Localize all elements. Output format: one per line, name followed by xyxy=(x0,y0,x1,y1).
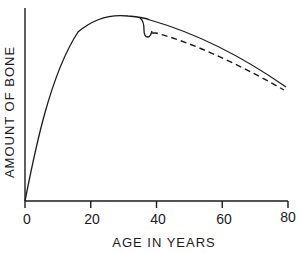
x-tick-label: 0 xyxy=(23,211,31,227)
x-tick-labels: 0 20 40 60 80 xyxy=(23,209,296,227)
dip-segment xyxy=(140,18,152,37)
x-tick-label: 40 xyxy=(150,211,166,227)
y-axis-title: AMOUNT OF BONE xyxy=(2,46,17,178)
bone-mass-chart: 0 20 40 60 80 AGE IN YEARS AMOUNT OF BON… xyxy=(0,0,301,253)
x-ticks xyxy=(25,201,288,208)
normal-bone-curve xyxy=(25,16,286,201)
x-tick-label: 60 xyxy=(216,211,232,227)
dashed-bone-curve xyxy=(152,33,284,90)
x-tick-label: 20 xyxy=(84,211,100,227)
x-tick-label: 80 xyxy=(280,209,296,225)
x-axis-title: AGE IN YEARS xyxy=(112,235,216,250)
